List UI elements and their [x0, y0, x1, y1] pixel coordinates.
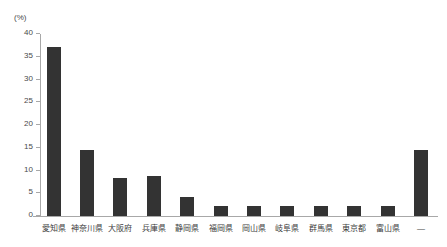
bar[interactable]: [280, 206, 294, 216]
y-axis-tick-label: 0: [29, 210, 33, 219]
bar[interactable]: [214, 206, 228, 216]
bar-slot[interactable]: [271, 34, 303, 216]
bar[interactable]: [47, 47, 61, 216]
bar[interactable]: [180, 197, 194, 216]
bar-slot[interactable]: [171, 34, 203, 216]
bar-slot[interactable]: [372, 34, 404, 216]
y-axis-unit-label: (%): [14, 13, 26, 22]
y-axis-tick-label: 25: [24, 96, 33, 105]
bar[interactable]: [414, 150, 428, 216]
bar[interactable]: [113, 178, 127, 216]
bar[interactable]: [147, 176, 161, 216]
bar-slot[interactable]: [405, 34, 437, 216]
bar[interactable]: [347, 206, 361, 216]
bar-slot[interactable]: [305, 34, 337, 216]
x-axis-category-label: —: [398, 224, 444, 234]
bar-slot[interactable]: [338, 34, 370, 216]
bar-chart: (%) 4035302520151050 愛知県神奈川県大阪府兵庫県静岡県福岡県…: [0, 0, 447, 247]
y-axis-tick-label: 10: [24, 165, 33, 174]
y-axis-tick-label: 5: [29, 187, 33, 196]
bar[interactable]: [314, 206, 328, 216]
bar-slot[interactable]: [238, 34, 270, 216]
y-axis-tick-label: 20: [24, 119, 33, 128]
y-axis-tick-label: 15: [24, 142, 33, 151]
y-axis-tick-label: 40: [24, 28, 33, 37]
plot-area: [40, 34, 434, 216]
bar-slot[interactable]: [104, 34, 136, 216]
bar-slot[interactable]: [38, 34, 70, 216]
bar[interactable]: [80, 150, 94, 216]
x-axis-line: [33, 216, 438, 217]
bar-slot[interactable]: [205, 34, 237, 216]
y-axis-tick-label: 30: [24, 74, 33, 83]
y-axis-tick-label: 35: [24, 51, 33, 60]
bar[interactable]: [247, 206, 261, 216]
bar-slot[interactable]: [138, 34, 170, 216]
bar-slot[interactable]: [71, 34, 103, 216]
bar[interactable]: [381, 206, 395, 216]
